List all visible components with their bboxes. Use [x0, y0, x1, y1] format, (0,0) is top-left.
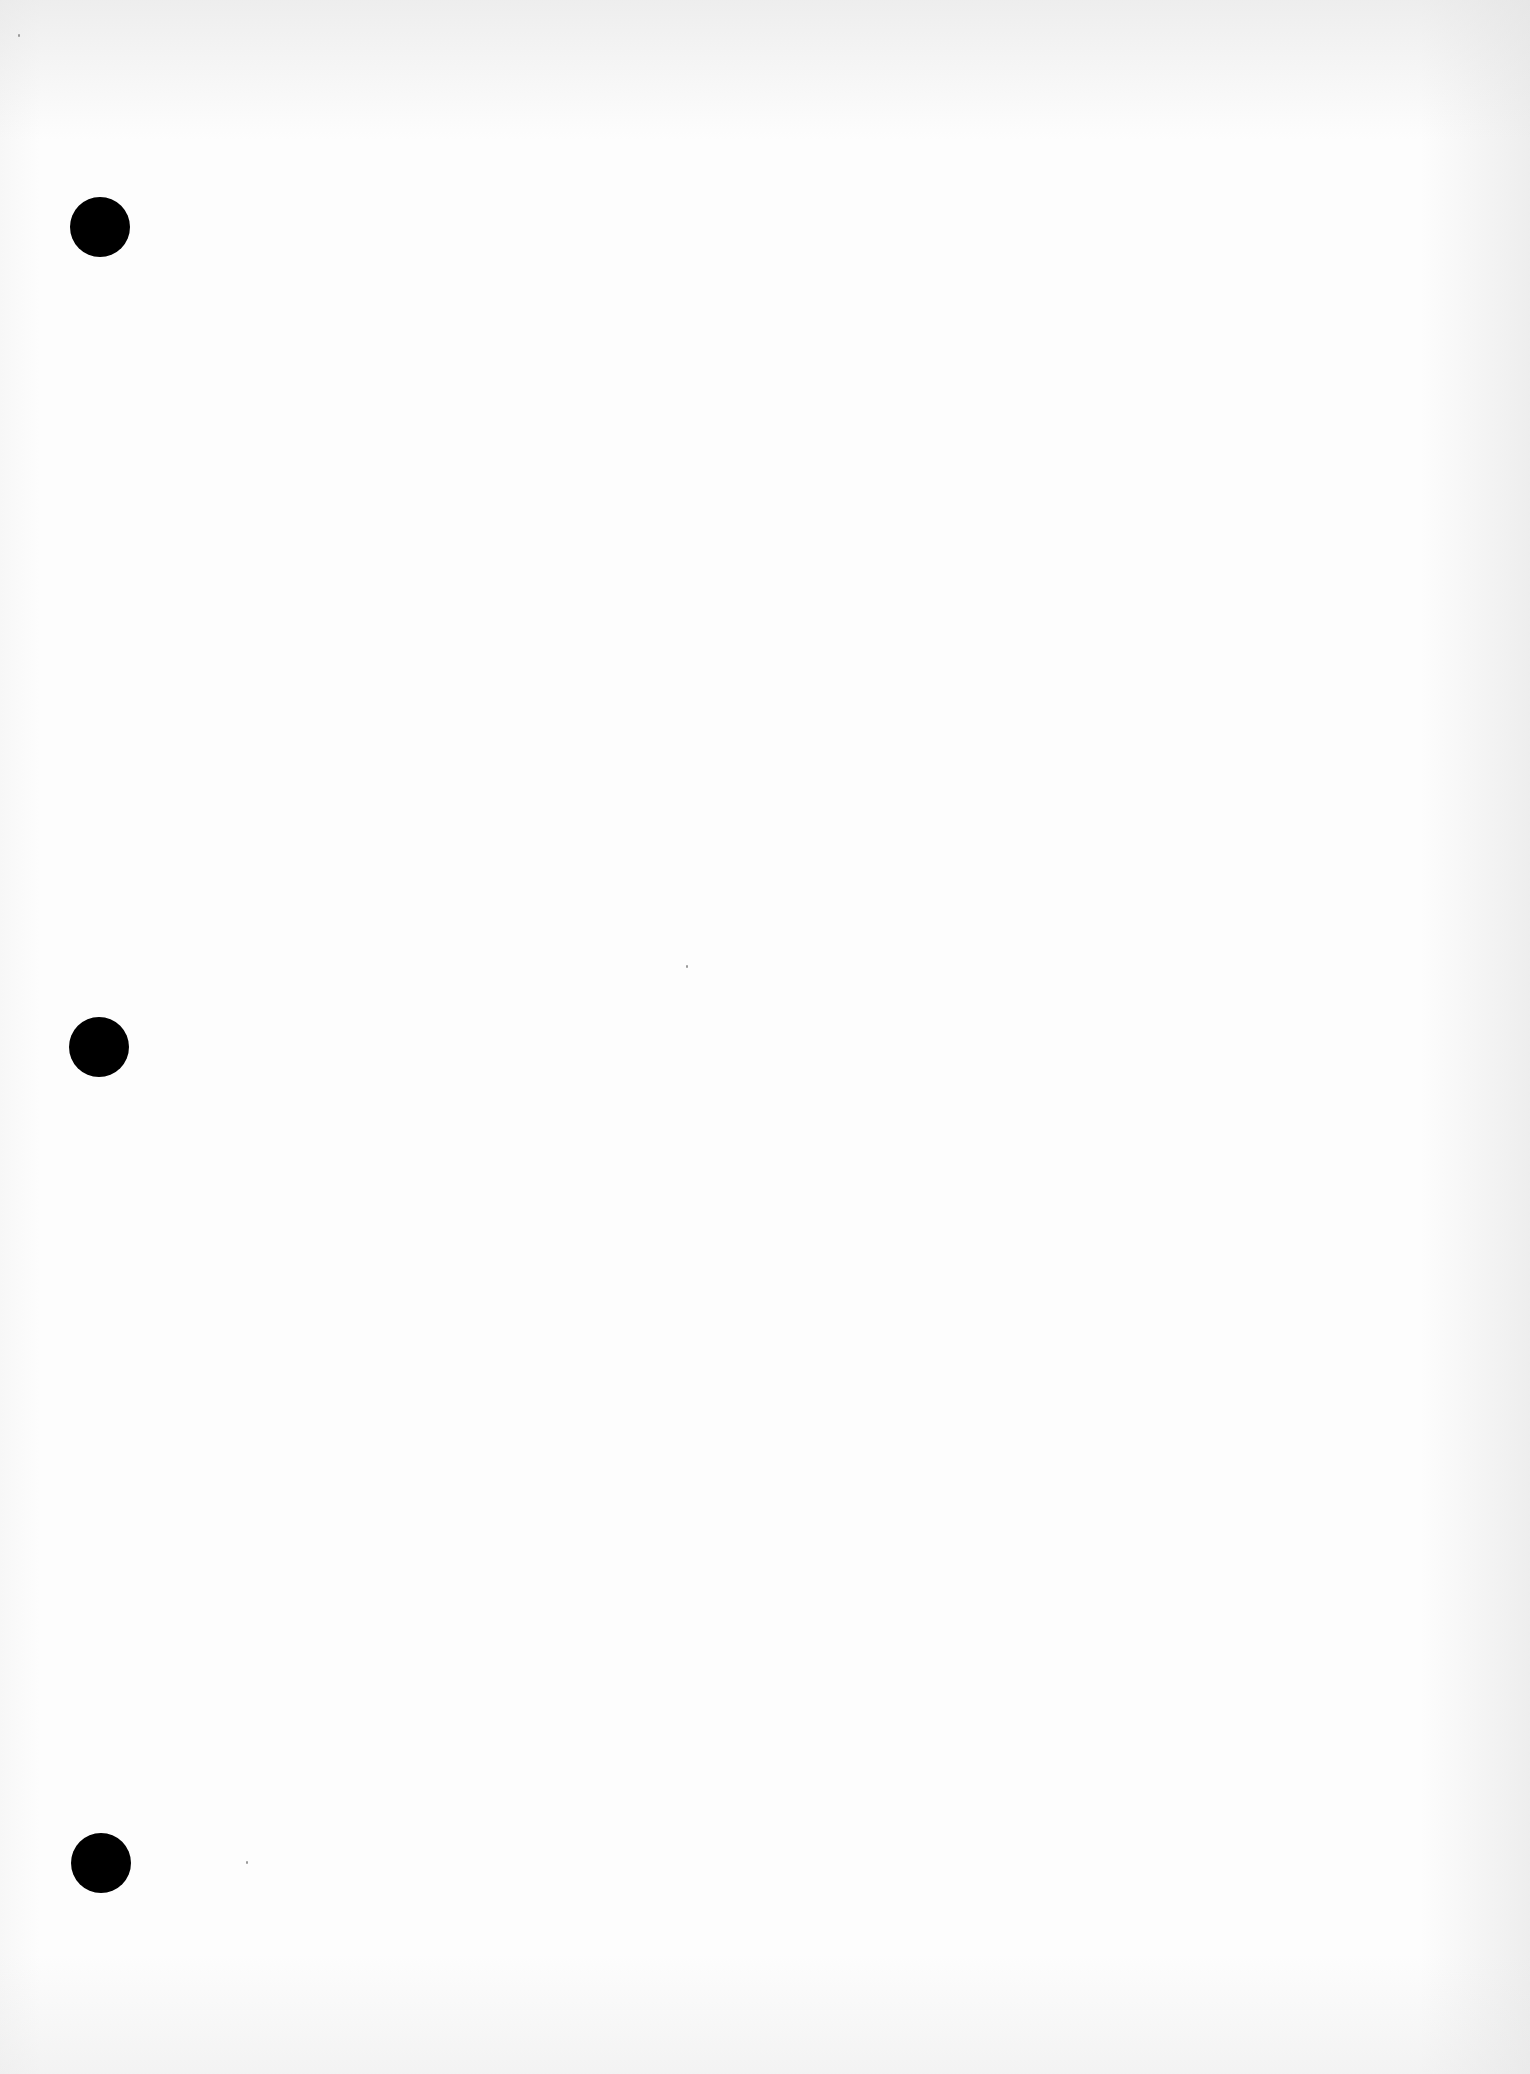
punch-hole-bottom — [71, 1833, 131, 1893]
scan-speck — [18, 34, 20, 37]
scan-speck — [246, 1861, 248, 1864]
punch-hole-middle — [69, 1017, 129, 1077]
scan-speck — [686, 965, 688, 968]
punch-hole-top — [70, 197, 130, 257]
blank-page — [0, 0, 1530, 2074]
